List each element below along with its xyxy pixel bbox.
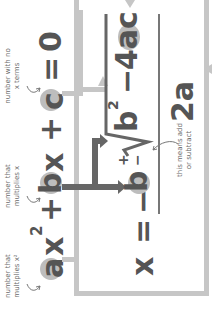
formula-minus2: −	[112, 69, 142, 94]
formula-b-squared: b	[112, 111, 142, 132]
formula-4ac: 4ac	[112, 11, 142, 70]
fraction-bar	[158, 14, 160, 214]
quadratic-diagram: number that multiplies x² number that mu…	[0, 0, 215, 314]
formula-b-exponent: 2	[106, 100, 120, 110]
formula-denominator: 2a	[168, 81, 198, 122]
annotation-plus-minus: this means add or subtract	[176, 120, 194, 180]
